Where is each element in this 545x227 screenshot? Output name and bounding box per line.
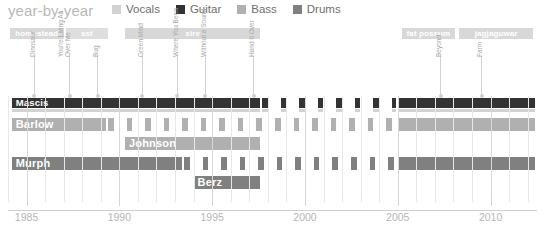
axis-tick-minor xyxy=(8,196,9,202)
album-marker[interactable]: Green Mind xyxy=(142,56,143,96)
album-name: Dinosaur xyxy=(29,31,36,57)
album-marker[interactable]: Hand It Over xyxy=(253,56,254,96)
album-stem xyxy=(69,56,70,96)
axis-tick-label: 1995 xyxy=(200,211,223,223)
axis-tick-minor xyxy=(528,196,529,202)
album-marker[interactable]: Where You Been xyxy=(177,56,178,96)
axis-tick-minor xyxy=(249,196,250,202)
album-name: Farm xyxy=(476,42,483,57)
gridline-major xyxy=(119,96,120,196)
legend-swatch-icon xyxy=(237,5,246,14)
axis-tick-minor xyxy=(156,196,157,202)
album-stem xyxy=(142,56,143,96)
album-stem xyxy=(253,56,254,96)
legend-item-guitar[interactable]: Guitar xyxy=(176,4,221,15)
axis-tick-minor xyxy=(138,196,139,202)
gridline-minor xyxy=(175,96,176,196)
legend-swatch-icon xyxy=(112,5,121,14)
album-name: You're Living All Over Me xyxy=(57,12,71,57)
axis-tick-minor xyxy=(472,196,473,202)
album-name: Bug xyxy=(92,45,99,57)
album-marker[interactable]: Beyond xyxy=(440,56,441,96)
album-stem xyxy=(440,56,441,96)
album-name: Without a Sound xyxy=(200,9,207,57)
album-marker[interactable]: Dinosaur xyxy=(34,56,35,96)
axis-tick-label: 2005 xyxy=(386,211,409,223)
axis-tick-major xyxy=(27,196,28,206)
axis-tick-minor xyxy=(379,196,380,202)
gridline-minor xyxy=(194,96,195,196)
gridline-minor xyxy=(64,96,65,196)
axis-tick-label: 1985 xyxy=(15,211,38,223)
axis-tick-major xyxy=(305,196,306,206)
axis-gridlines xyxy=(8,96,537,211)
gridline-minor xyxy=(231,96,232,196)
axis-tick-minor xyxy=(453,196,454,202)
album-marker[interactable]: Bug xyxy=(97,56,98,96)
gridline-minor xyxy=(82,96,83,196)
record-label-name: sire xyxy=(185,30,200,38)
gridline-major xyxy=(27,96,28,196)
legend-label: Vocals xyxy=(126,4,160,15)
axis-tick-major xyxy=(398,196,399,206)
axis-tick-label: 2010 xyxy=(479,211,502,223)
record-label-name: jagjaguwar xyxy=(475,30,518,38)
legend-label: Drums xyxy=(307,4,341,15)
record-label-bar[interactable]: homestead xyxy=(10,28,64,39)
axis-tick-minor xyxy=(435,196,436,202)
album-name: Green Mind xyxy=(137,23,144,57)
gridline-minor xyxy=(45,96,46,196)
gridline-minor xyxy=(156,96,157,196)
gridline-minor xyxy=(342,96,343,196)
gridline-minor xyxy=(379,96,380,196)
gridline-major xyxy=(398,96,399,196)
album-marker[interactable]: You're Living All Over Me xyxy=(69,56,70,96)
axis-tick-minor xyxy=(45,196,46,202)
album-name: Beyond xyxy=(435,35,442,57)
gridline-minor xyxy=(101,96,102,196)
gridline-minor xyxy=(509,96,510,196)
gridline-minor xyxy=(286,96,287,196)
legend-swatch-icon xyxy=(293,5,302,14)
axis-tick-minor xyxy=(342,196,343,202)
legend-item-vocals[interactable]: Vocals xyxy=(112,4,160,15)
axis-tick-minor xyxy=(231,196,232,202)
gridline-minor xyxy=(268,96,269,196)
gridline-minor xyxy=(8,96,9,196)
record-label-name: homestead xyxy=(15,30,58,38)
record-label-bar[interactable]: sst xyxy=(66,28,109,39)
gridline-minor xyxy=(416,96,417,196)
legend-item-drums[interactable]: Drums xyxy=(293,4,341,15)
album-marker[interactable]: Without a Sound xyxy=(205,56,206,96)
album-stem xyxy=(481,56,482,96)
axis-tick-minor xyxy=(194,196,195,202)
page-title: year-by-year xyxy=(8,2,93,19)
record-label-name: sst xyxy=(81,30,93,38)
axis-tick-minor xyxy=(82,196,83,202)
axis-tick-minor xyxy=(101,196,102,202)
axis-tick-minor xyxy=(175,196,176,202)
record-label-bar[interactable]: sire xyxy=(125,28,260,39)
gridline-minor xyxy=(528,96,529,196)
axis-tick-minor xyxy=(324,196,325,202)
axis-tick-minor xyxy=(509,196,510,202)
chart-header: year-by-year VocalsGuitarBassDrums xyxy=(0,0,545,24)
record-label-bar[interactable]: jagjaguwar xyxy=(459,28,533,39)
axis-baseline xyxy=(8,210,537,211)
legend-label: Bass xyxy=(251,4,277,15)
axis-tick-label: 1990 xyxy=(108,211,131,223)
axis-tick-minor xyxy=(268,196,269,202)
record-label-bar[interactable]: fat possum xyxy=(402,28,456,39)
album-stem xyxy=(97,56,98,96)
record-label-name: fat possum xyxy=(407,30,451,38)
gridline-major xyxy=(212,96,213,196)
axis-tick-minor xyxy=(286,196,287,202)
gridline-minor xyxy=(435,96,436,196)
gridline-minor xyxy=(249,96,250,196)
album-marker[interactable]: Farm xyxy=(481,56,482,96)
gridline-major xyxy=(305,96,306,196)
legend-item-bass[interactable]: Bass xyxy=(237,4,277,15)
gridline-minor xyxy=(361,96,362,196)
album-name: Hand It Over xyxy=(248,20,255,57)
album-stem xyxy=(177,56,178,96)
